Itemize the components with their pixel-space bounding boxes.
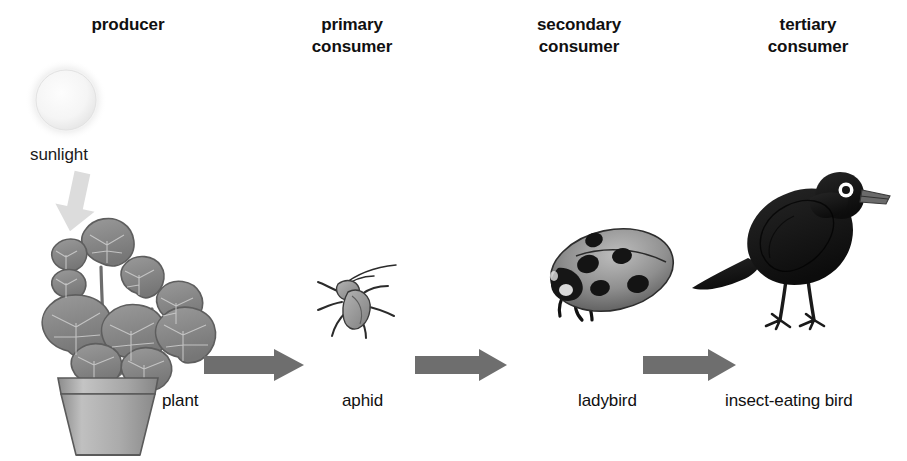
ladybird-illustration — [542, 226, 682, 330]
right-arrow-icon-3 — [643, 349, 736, 381]
food-chain-diagram: producer primary consumer secondary cons… — [0, 0, 907, 461]
organism-label-plant: plant — [162, 391, 198, 411]
sunlight-label: sunlight — [30, 145, 88, 165]
level-header-secondary-consumer: secondary consumer — [494, 14, 664, 58]
plant-illustration — [28, 205, 218, 461]
sun-icon — [24, 58, 108, 142]
organism-label-bird: insect-eating bird — [725, 391, 853, 411]
right-arrow-icon-2 — [415, 349, 507, 381]
organism-label-aphid: aphid — [342, 391, 383, 411]
level-header-primary-consumer: primary consumer — [272, 14, 432, 58]
level-header-producer: producer — [48, 14, 208, 36]
level-header-tertiary-consumer: tertiary consumer — [728, 14, 888, 58]
organism-label-ladybird: ladybird — [578, 391, 637, 411]
aphid-illustration — [312, 258, 420, 344]
bird-illustration — [690, 162, 890, 332]
right-arrow-icon-1 — [204, 349, 304, 381]
